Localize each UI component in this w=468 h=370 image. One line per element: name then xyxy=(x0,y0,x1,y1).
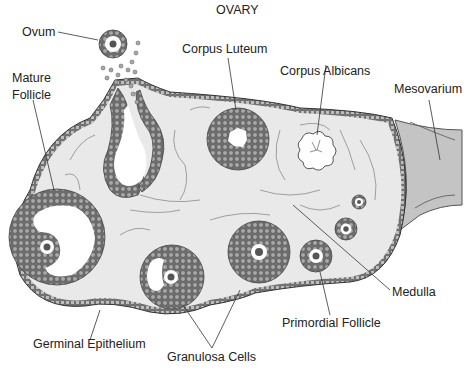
label-mesovarium: Mesovarium xyxy=(394,82,462,96)
label-granulosa-cells: Granulosa Cells xyxy=(167,350,256,364)
label-primordial-follicle: Primordial Follicle xyxy=(282,316,381,330)
corpus-albicans xyxy=(298,131,336,170)
growing-follicle xyxy=(228,221,290,283)
secondary-follicle xyxy=(140,245,204,309)
label-corpus-albicans: Corpus Albicans xyxy=(280,64,370,78)
primordial-follicle-small xyxy=(335,218,357,240)
label-mature-follicle-line1: Mature xyxy=(12,71,51,85)
diagram-title: OVARY xyxy=(216,3,259,17)
corpus-luteum xyxy=(207,108,269,170)
primordial-follicle-smallest xyxy=(352,195,366,209)
label-mature-follicle-line2: Follicle xyxy=(12,88,51,102)
ovum xyxy=(99,30,127,58)
label-germinal-epithelium: Germinal Epithelium xyxy=(33,337,146,351)
mature-follicle xyxy=(9,189,105,285)
label-medulla: Medulla xyxy=(392,285,436,299)
label-corpus-luteum: Corpus Luteum xyxy=(182,42,267,56)
label-ovum: Ovum xyxy=(22,25,55,39)
primordial-follicle xyxy=(300,240,332,272)
